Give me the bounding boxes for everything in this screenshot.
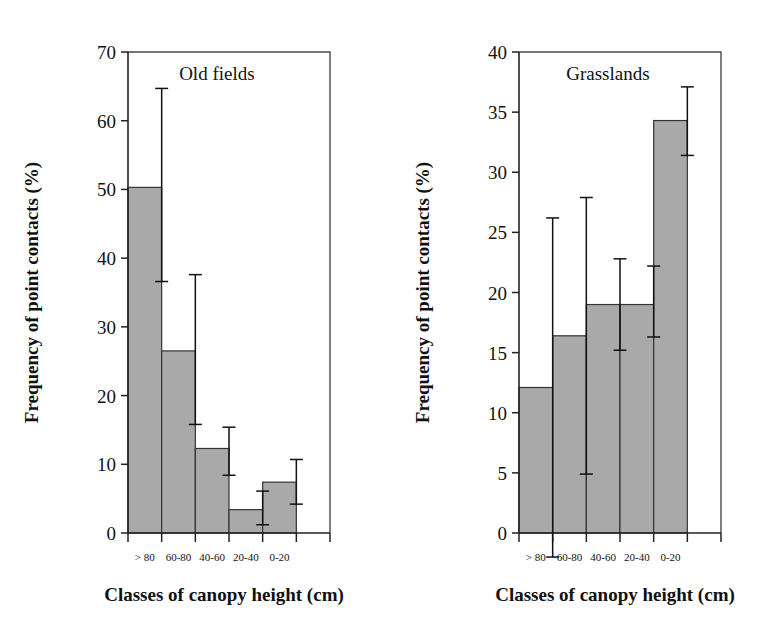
bar-old-fields-2: [195, 448, 229, 533]
y-tick-label-2: 20: [97, 386, 116, 407]
y-tick-label-1: 10: [97, 454, 116, 475]
y-tick-label-0: 0: [498, 523, 508, 544]
bar-old-fields-1: [162, 351, 196, 533]
x-axis-title-old-fields: Classes of canopy height (cm): [104, 584, 344, 606]
y-tick-label-5: 25: [488, 222, 507, 243]
x-category-label-4: 0-20: [269, 551, 290, 563]
x-axis-title-grasslands: Classes of canopy height (cm): [495, 584, 735, 606]
y-tick-label-4: 20: [488, 283, 507, 304]
panel-title-old-fields: Old fields: [179, 63, 254, 84]
y-tick-label-0: 0: [107, 523, 117, 544]
bar-grasslands-2: [586, 305, 620, 533]
bar-old-fields-0: [128, 187, 162, 533]
y-tick-label-3: 15: [488, 343, 507, 364]
y-tick-label-4: 40: [97, 248, 116, 269]
bar-grasslands-0: [519, 387, 553, 533]
bar-old-fields-3: [229, 510, 263, 533]
bar-grasslands-4: [654, 121, 688, 533]
chart-svg-old-fields: 010203040506070> 8060-8040-6020-400-20Ol…: [0, 0, 391, 628]
y-axis-title-old-fields: Frequency of point contacts (%): [21, 162, 43, 423]
bar-grasslands-3: [620, 305, 654, 533]
y-tick-label-6: 30: [488, 162, 507, 183]
y-tick-label-7: 70: [97, 42, 116, 63]
y-tick-label-6: 60: [97, 111, 116, 132]
x-category-label-2: 40-60: [199, 551, 225, 563]
y-axis-title-grasslands: Frequency of point contacts (%): [412, 162, 434, 423]
chart-panel-old-fields: 010203040506070> 8060-8040-6020-400-20Ol…: [0, 0, 391, 628]
y-tick-label-3: 30: [97, 317, 116, 338]
x-category-label-4: 0-20: [660, 551, 681, 563]
x-category-label-1: 60-80: [557, 551, 583, 563]
y-tick-label-8: 40: [488, 42, 507, 63]
y-tick-label-7: 35: [488, 102, 507, 123]
panel-title-grasslands: Grasslands: [566, 63, 649, 84]
x-category-label-0: > 80: [526, 551, 546, 563]
x-category-label-3: 20-40: [624, 551, 650, 563]
y-tick-label-5: 50: [97, 179, 116, 200]
x-category-label-1: 60-80: [166, 551, 192, 563]
bar-grasslands-1: [553, 336, 587, 533]
figure-root: 010203040506070> 8060-8040-6020-400-20Ol…: [0, 0, 782, 628]
x-category-label-0: > 80: [135, 551, 155, 563]
x-category-label-3: 20-40: [233, 551, 259, 563]
y-tick-label-2: 10: [488, 403, 507, 424]
chart-svg-grasslands: 0510152025303540> 8060-8040-6020-400-20G…: [391, 0, 782, 628]
chart-panel-grasslands: 0510152025303540> 8060-8040-6020-400-20G…: [391, 0, 782, 628]
y-tick-label-1: 5: [498, 463, 508, 484]
x-category-label-2: 40-60: [590, 551, 616, 563]
